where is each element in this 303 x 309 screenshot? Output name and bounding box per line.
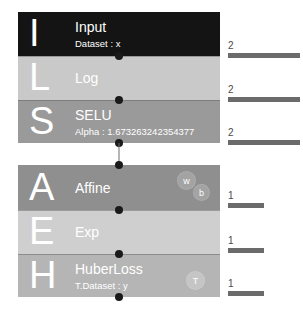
layer-title: Affine xyxy=(75,179,174,196)
output-bar-value: 1 xyxy=(228,235,264,246)
layer-initial-icon: E xyxy=(29,212,54,250)
output-bar-row[interactable]: 1 xyxy=(228,235,264,253)
output-bar-fill xyxy=(228,97,300,102)
layer-initial-icon: S xyxy=(29,102,54,140)
output-bar-row[interactable]: 2 xyxy=(228,127,300,145)
output-bar-value: 2 xyxy=(228,84,300,95)
output-bar-fill xyxy=(228,291,264,296)
weight-badge-icon[interactable]: w xyxy=(177,171,196,190)
output-bar-value: 1 xyxy=(228,278,264,289)
connector-dot[interactable] xyxy=(115,293,123,301)
layer-node-input[interactable]: I Input Dataset : x xyxy=(18,12,220,56)
layer-node-log[interactable]: L Log xyxy=(18,56,220,100)
diagram-canvas: I Input Dataset : x L Log S SELU Alpha :… xyxy=(0,0,303,309)
connector-dot[interactable] xyxy=(115,52,123,60)
output-bar-row[interactable]: 1 xyxy=(228,190,264,208)
layer-initial-icon: H xyxy=(29,256,56,294)
output-bar-row[interactable]: 1 xyxy=(228,278,264,296)
connector-dot[interactable] xyxy=(115,250,123,258)
connector-dot[interactable] xyxy=(115,161,123,169)
output-bar-fill xyxy=(228,53,300,58)
layer-node-exp[interactable]: E Exp xyxy=(18,210,220,254)
layer-title: Input xyxy=(75,19,174,36)
output-bar-value: 1 xyxy=(228,190,264,201)
output-bar-fill xyxy=(228,140,300,145)
layer-text-block: HuberLoss T.Dataset : y xyxy=(75,260,174,291)
layer-node-affine[interactable]: A Affine w b xyxy=(18,165,220,210)
layer-initial-icon: A xyxy=(29,168,54,206)
output-bar-value: 2 xyxy=(228,127,300,138)
layer-initial-icon: L xyxy=(29,58,50,96)
output-bar-row[interactable]: 2 xyxy=(228,84,300,102)
bias-badge-icon[interactable]: b xyxy=(193,184,210,201)
layer-title: HuberLoss xyxy=(75,260,174,277)
layer-group-loss: A Affine w b E Exp H HuberLoss T.Dataset… xyxy=(18,165,220,297)
layer-node-selu[interactable]: S SELU Alpha : 1.673263242354377 xyxy=(18,100,220,143)
layer-title: SELU xyxy=(75,106,174,123)
layer-text-block: Exp xyxy=(75,224,174,241)
layer-subtitle: Alpha : 1.673263242354377 xyxy=(75,124,174,137)
output-bar-row[interactable]: 2 xyxy=(228,40,300,58)
layer-subtitle: T.Dataset : y xyxy=(75,278,174,291)
output-bar-value: 2 xyxy=(228,40,300,51)
layer-text-block: Input Dataset : x xyxy=(75,19,174,50)
layer-subtitle: Dataset : x xyxy=(75,37,174,50)
param-badge-group: T xyxy=(168,254,214,297)
layer-title: Exp xyxy=(75,224,174,241)
output-bar-fill xyxy=(228,203,264,208)
layer-group-forward: I Input Dataset : x L Log S SELU Alpha :… xyxy=(18,12,220,143)
layer-initial-icon: I xyxy=(29,14,40,52)
output-bar-fill xyxy=(228,248,264,253)
layer-text-block: Affine xyxy=(75,179,174,196)
layer-text-block: SELU Alpha : 1.673263242354377 xyxy=(75,106,174,137)
layer-node-huberloss[interactable]: H HuberLoss T.Dataset : y T xyxy=(18,254,220,297)
layer-title: Log xyxy=(75,70,174,87)
layer-text-block: Log xyxy=(75,70,174,87)
connector-dot[interactable] xyxy=(115,206,123,214)
param-badge-group: w b xyxy=(168,165,214,210)
connector-dot[interactable] xyxy=(115,96,123,104)
target-badge-icon[interactable]: T xyxy=(186,271,205,290)
